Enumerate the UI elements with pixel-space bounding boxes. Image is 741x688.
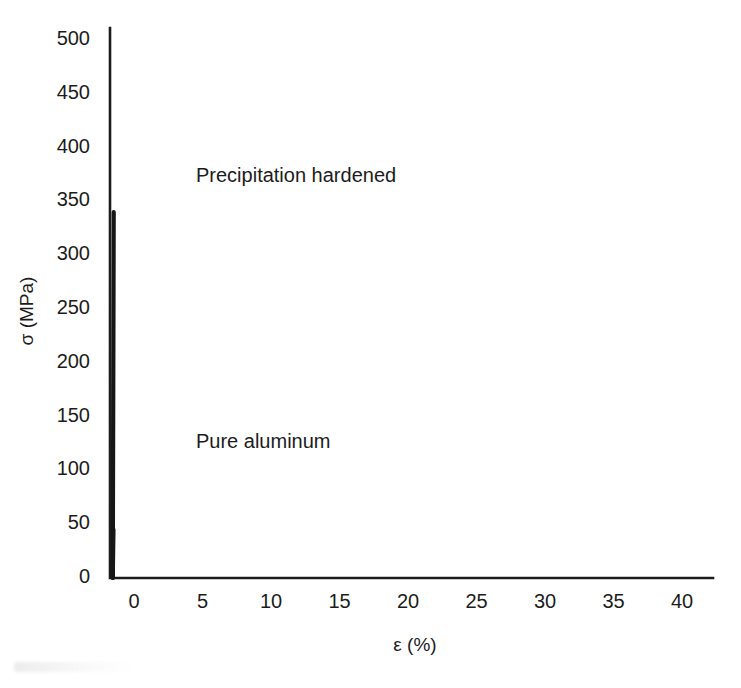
y-tick-label: 150 (28, 404, 90, 427)
x-tick-label: 15 (310, 590, 370, 613)
stress-strain-figure: 050100150200250300350400450500 051015202… (0, 0, 741, 688)
curve-precipitation-hardened (113, 212, 114, 578)
x-tick-label: 40 (652, 590, 712, 613)
y-axis-title: σ (MPa) (16, 251, 38, 371)
x-axis-title: ε (%) (355, 634, 475, 656)
x-tick-label: 20 (378, 590, 438, 613)
x-tick-label: 5 (173, 590, 233, 613)
y-tick-label: 450 (28, 81, 90, 104)
y-tick-label: 100 (28, 457, 90, 480)
scan-artifact-smudge (14, 662, 134, 672)
plot-canvas (0, 0, 741, 688)
x-tick-label: 10 (241, 590, 301, 613)
series-label-precipitation-hardened: Precipitation hardened (196, 164, 396, 187)
y-tick-label: 350 (28, 188, 90, 211)
axis-lines (110, 28, 713, 578)
y-tick-label: 400 (28, 135, 90, 158)
x-tick-label: 30 (515, 590, 575, 613)
x-tick-label: 35 (584, 590, 644, 613)
series-label-pure-aluminum: Pure aluminum (196, 430, 331, 453)
y-tick-label: 500 (28, 27, 90, 50)
curve-pure-aluminum (113, 530, 114, 578)
x-tick-label: 25 (447, 590, 507, 613)
y-tick-label: 0 (28, 565, 90, 588)
x-tick-label: 0 (104, 590, 164, 613)
y-tick-label: 50 (28, 511, 90, 534)
